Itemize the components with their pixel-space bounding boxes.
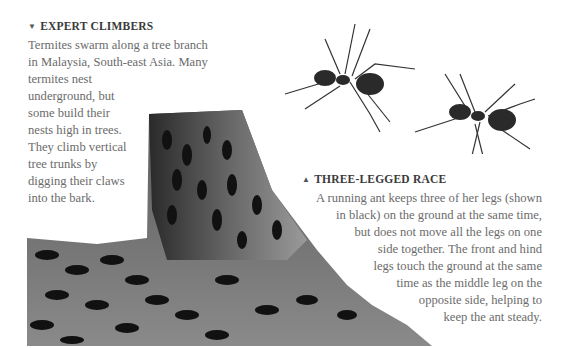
three-legged-race-heading: ▲THREE-LEGGED RACE [302,173,446,185]
caption-line: but does not move all the legs on one [355,224,542,241]
caption-line: opposite side, helping to [419,292,542,309]
caption-line: underground, but [28,88,115,105]
caption-line: Termites swarm along a tree branch [28,37,208,54]
caption-line: in black) on the ground at the same time… [336,207,542,224]
caption-line: legs touch the ground at the same [373,258,542,275]
ant-illustration [280,14,550,154]
triangle-up-icon: ▲ [302,175,310,184]
caption-line: termites nest [28,71,92,88]
caption-line: They climb vertical [28,139,127,156]
expert-climbers-heading: ▼EXPERT CLIMBERS [28,20,153,32]
caption-line: into the bark. [28,190,95,207]
caption-line: side together. The front and hind [378,241,542,258]
caption-line: digging their claws [28,173,125,190]
caption-line: A running ant keeps three of her legs (s… [316,190,542,207]
caption-line: keep the ant steady. [444,309,543,326]
triangle-down-icon: ▼ [28,22,36,31]
caption-line: tree trunks by [28,156,97,173]
caption-line: time as the middle leg on the [397,275,543,292]
caption-line: nests high in trees. [28,122,122,139]
caption-line: some build their [28,105,110,122]
caption-line: in Malaysia, South-east Asia. Many [28,54,208,71]
